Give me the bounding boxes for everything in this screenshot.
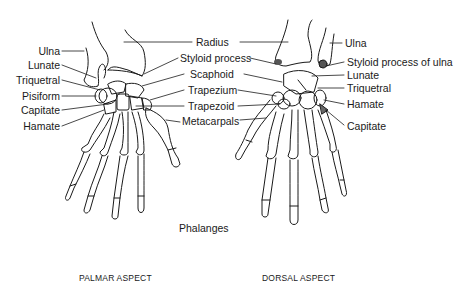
dorsal-hand (236, 20, 347, 225)
palmar-hand (65, 22, 180, 219)
label-scaphoid: Scaphoid (190, 68, 234, 80)
label-palmar-pisiform: Pisiform (0, 90, 60, 102)
label-palmar-capitate: Capitate (0, 104, 60, 116)
label-trapezoid: Trapezoid (188, 100, 234, 112)
label-palmar-hamate: Hamate (0, 120, 60, 132)
label-dorsal-styloid-process-of-ulna: Styloid process of ulna (347, 56, 453, 68)
label-dorsal-triquetral: Triquetral (347, 82, 391, 94)
hand-skeleton-illustration (0, 0, 468, 301)
caption-palmar-aspect: PALMAR ASPECT (79, 273, 152, 283)
label-radius: Radius (196, 36, 229, 48)
label-dorsal-hamate: Hamate (347, 98, 384, 110)
label-trapezium: Trapezium (188, 84, 237, 96)
label-metacarpals: Metacarpals (182, 115, 239, 127)
label-palmar-triquetral: Triquetral (0, 74, 60, 86)
label-styloid-process: Styloid process (180, 52, 251, 64)
label-palmar-ulna: Ulna (0, 45, 60, 57)
label-phalanges: Phalanges (179, 222, 229, 234)
label-palmar-lunate: Lunate (0, 59, 60, 71)
label-dorsal-ulna: Ulna (345, 37, 367, 49)
caption-dorsal-aspect: DORSAL ASPECT (262, 273, 335, 283)
label-dorsal-capitate: Capitate (347, 120, 386, 132)
label-dorsal-lunate: Lunate (347, 69, 379, 81)
